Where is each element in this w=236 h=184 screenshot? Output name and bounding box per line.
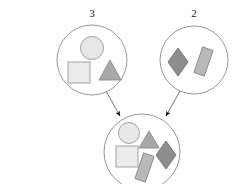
- arrows-group: [106, 91, 180, 116]
- set-union-shape-circle: [119, 123, 140, 144]
- set-left-group[interactable]: 3: [57, 7, 127, 95]
- set-union-diagram: 3 2: [0, 0, 236, 184]
- set-left-shape-circle: [81, 37, 104, 60]
- arrow-left-to-union: [106, 91, 120, 116]
- diagram-canvas: 3 2: [0, 0, 236, 184]
- set-left-label: 3: [89, 7, 95, 19]
- set-left-shape-square: [68, 62, 90, 83]
- set-left-boundary[interactable]: [57, 25, 127, 95]
- set-union-group[interactable]: [104, 114, 180, 184]
- set-union-shape-square: [116, 146, 138, 167]
- set-right-group[interactable]: 2: [160, 7, 228, 94]
- set-right-label: 2: [191, 7, 197, 19]
- arrow-right-to-union: [166, 91, 180, 116]
